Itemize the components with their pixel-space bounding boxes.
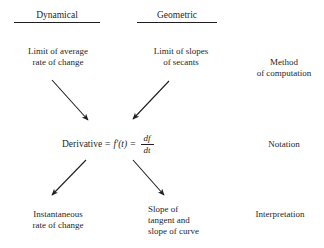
derivative-label: Derivative bbox=[62, 139, 102, 150]
node-limit-of-slopes-of-secants: Limit of slopes of secants bbox=[132, 46, 230, 68]
column-heading-dynamical-label: Dynamical bbox=[36, 10, 78, 20]
arrow-avg-rate-to-derivative bbox=[52, 80, 88, 120]
row-label-interpretation: Interpretation bbox=[238, 209, 322, 220]
derivative-concept-diagram: Dynamical Geometric Limit of average rat… bbox=[0, 0, 324, 248]
row-label-method-of-computation: Method of computation bbox=[246, 57, 322, 79]
arrow-slopes-to-derivative bbox=[133, 81, 169, 119]
column-heading-dynamical: Dynamical bbox=[14, 10, 100, 23]
fraction-denominator: dt bbox=[141, 146, 152, 156]
arrow-derivative-to-slope bbox=[133, 160, 164, 195]
node-instantaneous-rate-of-change: Instantaneous rate of change bbox=[6, 209, 110, 231]
fraction-numerator: df bbox=[141, 134, 152, 144]
row-label-notation: Notation bbox=[246, 139, 322, 150]
node-slope-of-tangent-and-slope-of-curve: Slope of tangent and slope of curve bbox=[148, 204, 234, 237]
derivative-fraction: df dt bbox=[141, 134, 154, 155]
column-heading-geometric-label: Geometric bbox=[157, 10, 197, 20]
column-heading-dynamical-underline bbox=[14, 22, 100, 23]
node-limit-of-average-rate-of-change: Limit of average rate of change bbox=[6, 46, 110, 68]
equals-sign-1: = bbox=[105, 139, 110, 150]
column-heading-geometric: Geometric bbox=[137, 10, 217, 23]
node-derivative-formula: Derivative = f′(t) = df dt bbox=[62, 134, 154, 155]
column-heading-geometric-underline bbox=[137, 22, 217, 23]
arrow-derivative-to-instantaneous bbox=[52, 160, 86, 195]
equals-sign-2: = bbox=[130, 139, 135, 150]
function-notation: f′(t) bbox=[113, 139, 127, 150]
